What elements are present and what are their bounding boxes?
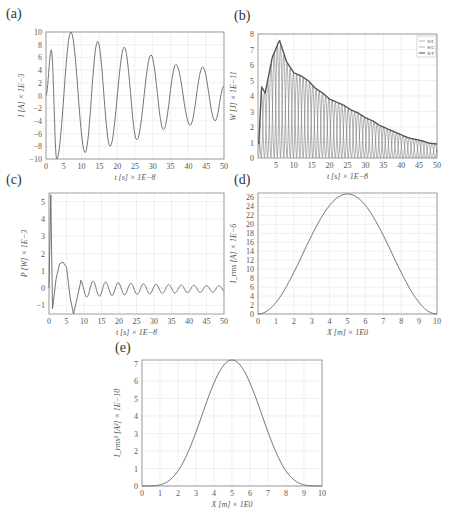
svg-text:2: 2	[134, 447, 138, 456]
grid	[142, 360, 322, 486]
svg-text:35: 35	[168, 317, 176, 326]
chart-b: 5101520253035404550012345678t [s] × 1E−8…	[229, 30, 441, 181]
svg-text:8: 8	[38, 41, 42, 50]
svg-text:5: 5	[65, 317, 69, 326]
x-axis-ticks: 5101520253035404550	[274, 161, 441, 170]
svg-text:15: 15	[308, 161, 316, 170]
chart-a: 05101520253035404550−10−8−6−4−20246810t …	[17, 28, 228, 182]
svg-text:5: 5	[250, 77, 254, 86]
svg-text:5: 5	[134, 395, 138, 404]
svg-text:1: 1	[158, 489, 162, 498]
svg-text:0: 0	[256, 317, 260, 326]
svg-text:1: 1	[134, 465, 138, 474]
svg-text:3: 3	[134, 430, 138, 439]
svg-text:6: 6	[250, 283, 254, 292]
figure-canvas: 05101520253035404550−10−8−6−4−20246810t …	[0, 0, 455, 522]
svg-text:8: 8	[399, 317, 403, 326]
legend: WLWCWT	[417, 36, 436, 57]
y-axis-label: W [J] × 1E−11	[229, 71, 238, 121]
svg-text:40: 40	[397, 161, 405, 170]
y-axis-label: I [A] × 1E−3	[17, 74, 26, 118]
svg-text:WC: WC	[427, 45, 435, 50]
svg-text:−10: −10	[29, 155, 42, 164]
svg-text:2: 2	[292, 317, 296, 326]
svg-text:5: 5	[274, 161, 278, 170]
svg-text:0: 0	[44, 162, 48, 171]
y-axis-ticks: −10−8−6−4−20246810	[29, 28, 42, 164]
svg-text:7: 7	[266, 489, 270, 498]
svg-text:−6: −6	[33, 130, 42, 139]
svg-text:35: 35	[167, 162, 175, 171]
chart-d: 01234567891002468101214161820222426X [m]…	[229, 193, 441, 337]
panel-label-e: (e)	[115, 340, 131, 356]
svg-text:3: 3	[194, 489, 198, 498]
svg-text:20: 20	[115, 317, 123, 326]
svg-text:7: 7	[134, 360, 138, 369]
svg-text:12: 12	[246, 256, 254, 265]
y-axis-ticks: 01234567	[134, 360, 138, 492]
svg-text:30: 30	[361, 161, 369, 170]
svg-text:15: 15	[98, 317, 106, 326]
svg-text:9: 9	[417, 317, 421, 326]
svg-text:−2: −2	[33, 104, 42, 113]
svg-text:0: 0	[250, 310, 254, 319]
svg-text:WL: WL	[427, 39, 434, 44]
svg-text:3: 3	[41, 232, 45, 241]
svg-text:16: 16	[246, 238, 254, 247]
y-axis-ticks: 012345678	[250, 30, 254, 163]
panel-label-d: (d)	[234, 172, 250, 188]
svg-text:20: 20	[246, 220, 254, 229]
svg-text:24: 24	[246, 202, 254, 211]
svg-text:0: 0	[134, 482, 138, 491]
svg-text:20: 20	[326, 161, 334, 170]
svg-text:4: 4	[250, 292, 254, 301]
svg-text:4: 4	[134, 412, 138, 421]
panel-label-b: (b)	[234, 8, 250, 24]
svg-text:4: 4	[250, 92, 254, 101]
svg-text:0: 0	[41, 284, 45, 293]
svg-text:35: 35	[379, 161, 387, 170]
svg-text:10: 10	[433, 317, 441, 326]
svg-text:22: 22	[246, 211, 254, 220]
x-axis-label: X [m] × 1E0	[326, 328, 368, 337]
svg-text:1: 1	[274, 317, 278, 326]
svg-text:8: 8	[250, 30, 254, 39]
svg-text:40: 40	[185, 317, 193, 326]
svg-text:10: 10	[80, 317, 88, 326]
svg-text:7: 7	[250, 46, 254, 55]
x-axis-label: X [m] × 1E0	[210, 500, 252, 509]
svg-text:7: 7	[381, 317, 385, 326]
svg-text:0: 0	[38, 92, 42, 101]
chart-c: 05101520253035404550−1012345t [s] × 1E−8…	[20, 193, 228, 337]
svg-text:0: 0	[140, 489, 144, 498]
y-axis-ticks: −1012345	[36, 198, 45, 311]
grid	[46, 32, 224, 159]
svg-text:6: 6	[248, 489, 252, 498]
y-axis-label: I_rms² [A²] × 1E−10	[113, 389, 122, 458]
svg-text:30: 30	[149, 162, 157, 171]
svg-text:50: 50	[220, 317, 228, 326]
svg-text:0: 0	[250, 154, 254, 163]
svg-text:2: 2	[250, 301, 254, 310]
x-axis-ticks: 012345678910	[140, 489, 326, 498]
svg-text:−8: −8	[33, 142, 42, 151]
svg-text:6: 6	[250, 61, 254, 70]
series-WT	[259, 41, 437, 144]
svg-text:8: 8	[250, 274, 254, 283]
svg-text:WT: WT	[427, 51, 435, 56]
svg-text:6: 6	[134, 377, 138, 386]
svg-text:6: 6	[363, 317, 367, 326]
svg-text:4: 4	[328, 317, 332, 326]
panel-label-c: (c)	[6, 172, 22, 188]
y-axis-label: P [W] × 1E−3	[20, 230, 29, 278]
svg-text:45: 45	[202, 162, 210, 171]
x-axis-label: t [s] × 1E−8	[114, 173, 155, 182]
svg-text:40: 40	[184, 162, 192, 171]
svg-text:10: 10	[290, 161, 298, 170]
svg-text:50: 50	[220, 162, 228, 171]
svg-text:5: 5	[230, 489, 234, 498]
grid	[258, 193, 437, 314]
svg-text:25: 25	[344, 161, 352, 170]
svg-text:−1: −1	[36, 301, 45, 310]
x-axis-label: t [s] × 1E−8	[116, 328, 157, 337]
